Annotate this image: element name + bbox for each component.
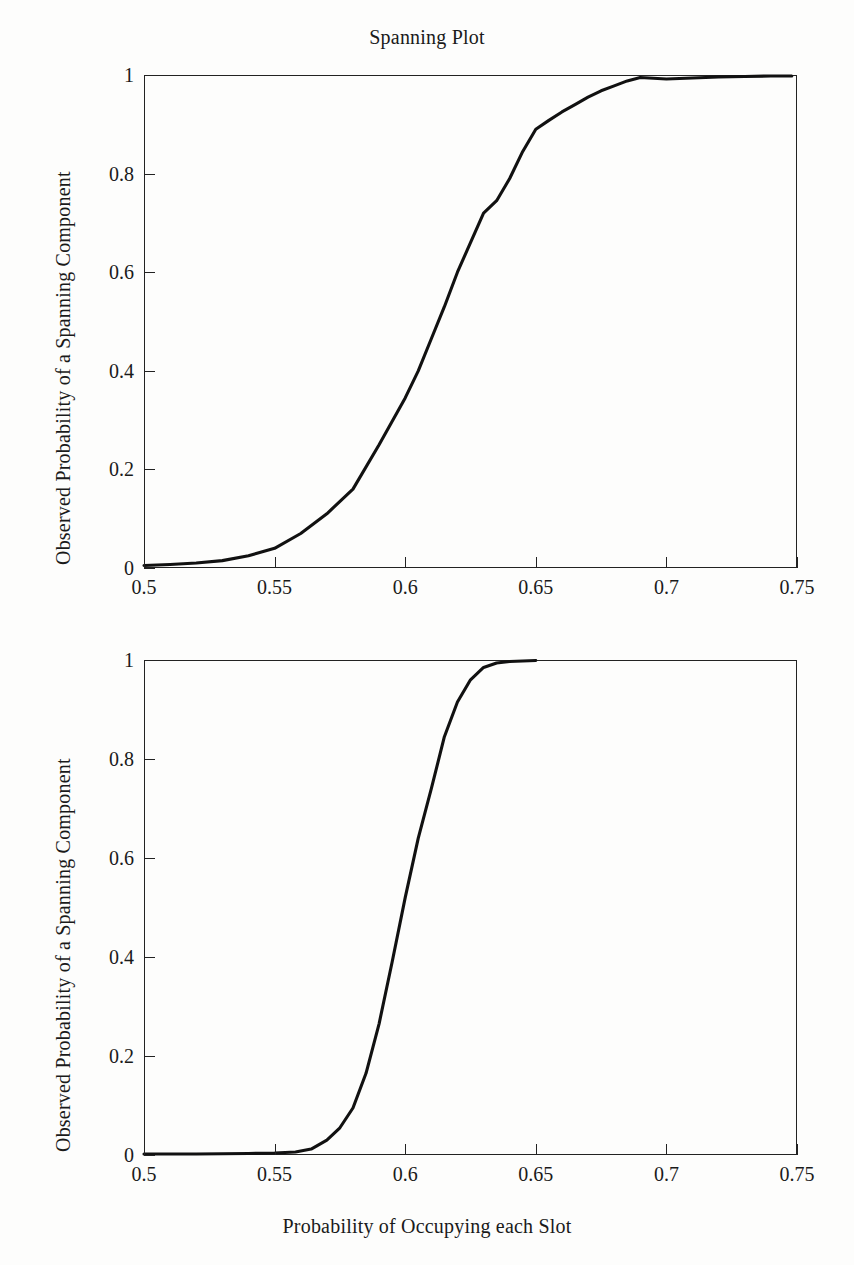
x-tick-mark: [666, 557, 667, 568]
x-tick-mark: [144, 557, 145, 568]
x-tick-label: 0.6: [370, 1163, 440, 1186]
chart-title: Spanning Plot: [0, 26, 854, 49]
x-tick-label: 0.65: [501, 1163, 571, 1186]
x-tick-label: 0.5: [109, 1163, 179, 1186]
y-tick-label: 0.4: [78, 359, 134, 382]
y-tick-mark: [144, 759, 155, 760]
y-tick-label: 0.2: [78, 1045, 134, 1068]
x-tick-mark: [666, 1144, 667, 1155]
y-tick-mark: [144, 174, 155, 175]
y-tick-mark: [144, 371, 155, 372]
x-tick-label: 0.55: [240, 1163, 310, 1186]
y-tick-label: 0.6: [78, 847, 134, 870]
x-tick-mark: [797, 557, 798, 568]
y-axis-label-top: Observed Probability of a Spanning Compo…: [52, 171, 75, 565]
x-tick-label: 0.6: [370, 576, 440, 599]
x-tick-label: 0.7: [631, 576, 701, 599]
chart-top: Spanning Plot Observed Probability of a …: [0, 0, 854, 620]
y-tick-label: 0.2: [78, 458, 134, 481]
plot-area-top: [144, 75, 797, 568]
y-tick-mark: [144, 1155, 155, 1156]
y-tick-mark: [144, 957, 155, 958]
y-tick-mark: [144, 75, 155, 76]
y-tick-label: 1: [78, 649, 134, 672]
y-tick-label: 1: [78, 64, 134, 87]
y-axis-label-bottom: Observed Probability of a Spanning Compo…: [52, 758, 75, 1152]
x-tick-mark: [144, 1144, 145, 1155]
y-tick-label: 0.6: [78, 261, 134, 284]
x-tick-label: 0.75: [762, 576, 832, 599]
x-tick-mark: [275, 557, 276, 568]
y-tick-mark: [144, 858, 155, 859]
y-tick-mark: [144, 1056, 155, 1057]
x-tick-mark: [405, 1144, 406, 1155]
y-tick-label: 0.8: [78, 162, 134, 185]
x-tick-mark: [536, 557, 537, 568]
x-tick-mark: [797, 1144, 798, 1155]
y-tick-mark: [144, 272, 155, 273]
x-tick-label: 0.55: [240, 576, 310, 599]
x-tick-mark: [405, 557, 406, 568]
y-tick-label: 0.4: [78, 946, 134, 969]
y-tick-mark: [144, 469, 155, 470]
y-tick-mark: [144, 568, 155, 569]
x-tick-label: 0.75: [762, 1163, 832, 1186]
figure-page: Spanning Plot Observed Probability of a …: [0, 0, 854, 1265]
x-tick-mark: [536, 1144, 537, 1155]
chart-bottom: Observed Probability of a Spanning Compo…: [0, 620, 854, 1265]
y-tick-mark: [144, 660, 155, 661]
x-tick-mark: [275, 1144, 276, 1155]
x-axis-label: Probability of Occupying each Slot: [0, 1215, 854, 1238]
x-tick-label: 0.5: [109, 576, 179, 599]
plot-area-bottom: [144, 660, 797, 1155]
x-tick-label: 0.65: [501, 576, 571, 599]
y-tick-label: 0.8: [78, 748, 134, 771]
x-tick-label: 0.7: [631, 1163, 701, 1186]
